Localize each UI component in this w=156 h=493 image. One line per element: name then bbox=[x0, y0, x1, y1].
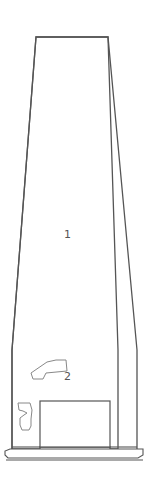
tower-outline bbox=[0, 0, 156, 493]
tower-shaft-outline bbox=[12, 37, 137, 449]
label-2: 2 bbox=[64, 371, 71, 382]
label-1: 1 bbox=[64, 229, 71, 240]
